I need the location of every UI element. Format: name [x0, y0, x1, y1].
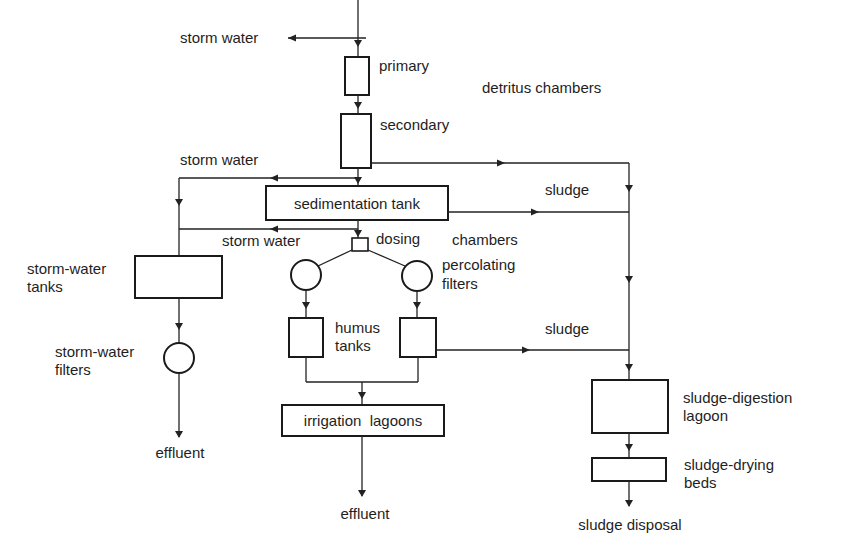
label-storm-water-tanks-1: storm-water	[27, 260, 106, 277]
label-dosing: dosing	[376, 230, 420, 247]
arrow-down-icon	[302, 302, 310, 309]
percolating-filter-right	[402, 261, 432, 291]
label-filters: filters	[442, 275, 478, 292]
arrow-left-icon	[288, 35, 296, 42]
sludge-digestion-lagoon-box	[592, 380, 668, 433]
arrow-right-icon	[531, 209, 539, 216]
arrow-down-icon	[175, 199, 183, 206]
label-sludge-disposal: sludge disposal	[578, 516, 681, 533]
percolating-filter-left	[291, 260, 321, 290]
arrow-down-icon	[175, 323, 183, 330]
label-effluent-left: effluent	[156, 444, 206, 461]
humus-tank-right-box	[400, 318, 436, 357]
label-storm-water-filters-2: filters	[55, 361, 91, 378]
label-sedimentation-tank: sedimentation tank	[294, 195, 420, 212]
label-storm-water-low: storm water	[222, 232, 300, 249]
label-sludge-drying-2: beds	[684, 474, 717, 491]
sewage-treatment-flow-diagram: storm water primary detritus chambers se…	[0, 0, 851, 553]
label-percolating: percolating	[442, 256, 515, 273]
label-irrigation-lagoons: irrigation lagoons	[304, 412, 422, 429]
arrow-down-icon	[413, 302, 421, 309]
label-sludge-digestion-1: sludge-digestion	[683, 389, 792, 406]
label-secondary: secondary	[380, 116, 450, 133]
arrow-down-icon	[358, 392, 366, 399]
arrow-down-icon	[358, 490, 366, 497]
arrow-down-icon	[354, 230, 362, 237]
secondary-chamber-box	[341, 114, 371, 168]
label-sludge-digestion-2: lagoon	[683, 407, 728, 424]
label-humus: humus	[335, 319, 380, 336]
arrow-down-icon	[625, 185, 633, 192]
label-storm-water-filters-1: storm-water	[55, 343, 134, 360]
label-sludge-humus: sludge	[545, 320, 589, 337]
label-storm-water-top: storm water	[180, 29, 258, 46]
label-sludge-top: sludge	[545, 181, 589, 198]
label-chambers: chambers	[452, 231, 518, 248]
dosing-to-right-filter-line	[368, 250, 405, 266]
primary-chamber-box	[345, 57, 369, 95]
arrow-down-icon	[354, 102, 362, 109]
label-humus-tanks: tanks	[335, 337, 371, 354]
arrow-down-icon	[625, 444, 633, 451]
label-storm-water-mid: storm water	[180, 151, 258, 168]
label-sludge-drying-1: sludge-drying	[684, 456, 774, 473]
inflow-line	[354, 0, 362, 57]
storm-water-filter-circle	[164, 343, 194, 373]
dosing-to-left-filter-line	[318, 250, 352, 266]
dosing-chamber-box	[352, 238, 368, 251]
arrow-down-icon	[354, 40, 362, 47]
arrow-right-icon	[522, 347, 530, 354]
label-primary: primary	[379, 57, 430, 74]
sludge-drying-beds-box	[592, 458, 666, 481]
arrow-down-icon	[625, 364, 633, 371]
label-storm-water-tanks-2: tanks	[27, 278, 63, 295]
arrow-right-icon	[497, 160, 505, 167]
arrow-down-icon	[625, 276, 633, 283]
arrow-down-icon	[625, 500, 633, 507]
humus-tank-left-box	[289, 318, 323, 357]
storm-water-tanks-box	[135, 256, 222, 298]
arrow-down-icon	[175, 431, 183, 438]
arrow-left-icon	[270, 175, 278, 182]
label-detritus-chambers: detritus chambers	[482, 79, 601, 96]
label-effluent-center: effluent	[341, 505, 391, 522]
